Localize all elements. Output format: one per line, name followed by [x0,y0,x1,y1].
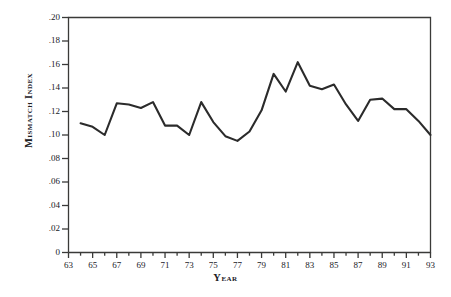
series-line-0 [81,62,431,141]
chart-plot [0,0,451,297]
plot-frame [69,18,431,253]
chart-container: Mismatch Index Year 0.02.04.06.08.10.12.… [0,0,451,297]
